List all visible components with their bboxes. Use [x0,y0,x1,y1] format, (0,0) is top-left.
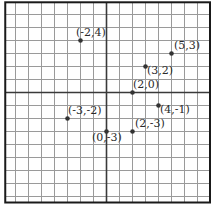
point: (3,2) [143,64,173,77]
point-label: (3,2) [147,64,173,77]
point-label: (5,3) [174,39,200,52]
coordinate-plane: (-2,4)(5,3)(3,2)(2,0)(4,-1)(-3,-2)(0,-3)… [0,0,218,211]
point-label: (4,-1) [160,103,190,116]
point-label: (0,-3) [92,131,122,144]
point-label: (2,-3) [135,117,165,130]
point: (0,-3) [92,129,122,144]
point: (4,-1) [156,103,190,116]
point-label: (2,0) [133,78,159,91]
point-label: (-3,-2) [68,104,102,117]
point-label: (-2,4) [76,26,106,39]
